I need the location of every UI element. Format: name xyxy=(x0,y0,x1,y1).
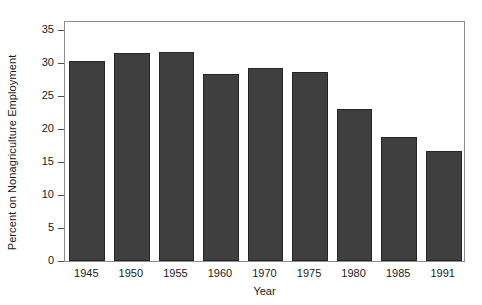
y-tick-0 xyxy=(58,261,64,262)
y-tick-label-10: 10 xyxy=(42,189,54,200)
bar-1975 xyxy=(292,72,328,261)
y-tick-label-5: 5 xyxy=(48,222,54,233)
bar-1980 xyxy=(337,109,373,261)
y-tick-10 xyxy=(58,195,64,196)
x-tick-label-1980: 1980 xyxy=(331,267,376,279)
bar-1970 xyxy=(248,68,284,261)
bar-1960 xyxy=(203,74,239,261)
y-tick-25 xyxy=(58,96,64,97)
y-tick-35 xyxy=(58,30,64,31)
bar-1955 xyxy=(159,52,195,261)
x-tick-label-1960: 1960 xyxy=(198,267,243,279)
x-tick-label-1950: 1950 xyxy=(109,267,154,279)
y-tick-label-20: 20 xyxy=(42,123,54,134)
x-tick-label-1975: 1975 xyxy=(287,267,332,279)
y-tick-15 xyxy=(58,162,64,163)
bar-chart-figure: Percent on Nonagriculture Employment 051… xyxy=(0,0,482,305)
bar-1985 xyxy=(381,137,417,261)
y-tick-20 xyxy=(58,129,64,130)
bar-1991 xyxy=(426,151,462,261)
x-tick-label-1991: 1991 xyxy=(420,267,465,279)
y-tick-label-0: 0 xyxy=(48,255,54,266)
plot-area xyxy=(64,21,465,262)
x-tick-label-1945: 1945 xyxy=(64,267,109,279)
x-axis-label: Year xyxy=(64,285,465,297)
y-tick-label-15: 15 xyxy=(42,156,54,167)
y-tick-30 xyxy=(58,63,64,64)
y-tick-label-25: 25 xyxy=(42,90,54,101)
y-tick-label-30: 30 xyxy=(42,57,54,68)
x-tick-label-1985: 1985 xyxy=(376,267,421,279)
y-axis-label: Percent on Nonagriculture Employment xyxy=(0,0,24,305)
y-tick-5 xyxy=(58,228,64,229)
bar-series xyxy=(65,22,464,261)
bar-1950 xyxy=(114,53,150,261)
y-tick-label-35: 35 xyxy=(42,24,54,35)
x-tick-label-1970: 1970 xyxy=(242,267,287,279)
x-tick-label-1955: 1955 xyxy=(153,267,198,279)
bar-1945 xyxy=(69,61,105,261)
